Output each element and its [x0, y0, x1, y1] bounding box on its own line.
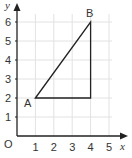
y-axis-label: y — [4, 0, 10, 11]
x-tick-4: 4 — [88, 141, 94, 153]
y-tick-3: 3 — [5, 73, 11, 85]
axes — [14, 3, 129, 140]
y-tick-2: 2 — [5, 92, 11, 104]
grid — [17, 14, 112, 136]
origin-label: O — [4, 138, 13, 150]
y-tick-1: 1 — [5, 111, 11, 123]
point-a-label: A — [24, 97, 32, 109]
x-tick-2: 2 — [51, 141, 57, 153]
y-axis-arrow-icon — [14, 3, 21, 11]
x-axis-arrow-icon — [120, 133, 128, 140]
y-tick-5: 5 — [5, 35, 11, 47]
coordinate-diagram: 1 2 3 4 5 6 1 2 3 4 5 x y O A B — [0, 0, 132, 158]
x-axis-label: x — [119, 140, 125, 152]
x-tick-3: 3 — [69, 141, 75, 153]
y-tick-4: 4 — [5, 54, 11, 66]
y-tick-6: 6 — [5, 16, 11, 28]
x-tick-5: 5 — [106, 141, 112, 153]
x-tick-1: 1 — [32, 141, 38, 153]
point-b-label: B — [86, 7, 93, 19]
